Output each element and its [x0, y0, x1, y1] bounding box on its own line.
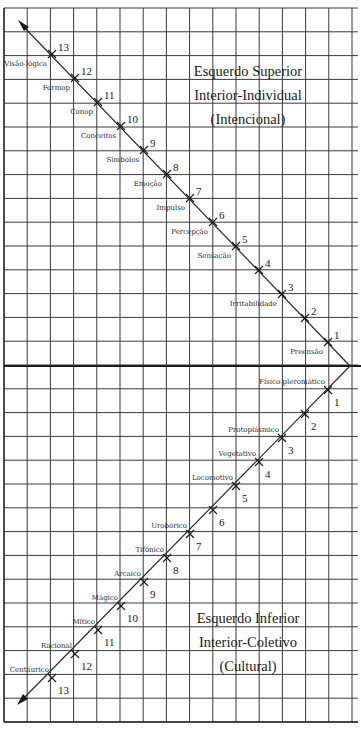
- level-label: Formop: [43, 84, 71, 92]
- upper-level-1: 1Preensão: [290, 329, 339, 356]
- lower-level-8: 8Tifônico: [135, 546, 179, 576]
- level-label: Conceitos: [81, 132, 116, 140]
- level-number: 13: [58, 684, 70, 696]
- upper-title-line2: Interior-Individual: [194, 87, 302, 103]
- level-number: 3: [288, 444, 294, 456]
- level-number: 5: [242, 492, 248, 504]
- level-label: Centáurico: [10, 666, 49, 674]
- level-number: 2: [311, 420, 317, 432]
- level-label: Mágico: [92, 594, 118, 602]
- level-label: Visão-lógica: [3, 60, 47, 68]
- level-label: Tifônico: [135, 546, 164, 554]
- upper-level-3: 3Irritabilidade: [230, 281, 294, 308]
- level-number: 2: [311, 305, 317, 317]
- level-number: 13: [58, 41, 70, 53]
- level-number: 1: [334, 396, 340, 408]
- upper-level-11: 11Conop: [70, 89, 114, 116]
- upper-title-line3: (Intencional): [211, 111, 286, 128]
- level-number: 9: [150, 588, 156, 600]
- level-number: 11: [104, 89, 115, 101]
- level-number: 8: [173, 161, 179, 173]
- level-number: 12: [81, 660, 92, 672]
- level-number: 8: [173, 564, 179, 576]
- level-label: Conop: [70, 108, 93, 116]
- level-number: 6: [219, 209, 225, 221]
- level-label: Sensação: [197, 252, 231, 260]
- lower-title-line3: (Cultural): [219, 658, 276, 675]
- level-number: 1: [334, 329, 340, 341]
- level-number: 9: [150, 137, 156, 149]
- level-label: Irritabilidade: [230, 300, 277, 308]
- lower-level-10: 10Mágico: [92, 594, 139, 624]
- level-number: 4: [265, 468, 271, 480]
- level-label: Impulso: [157, 204, 185, 212]
- lower-level-6: 6: [209, 506, 225, 528]
- level-number: 7: [196, 540, 202, 552]
- level-number: 3: [288, 281, 294, 293]
- level-label: Locomotivo: [192, 474, 233, 482]
- level-number: 4: [265, 257, 271, 269]
- upper-quadrant-title: Esquerdo Superior Interior-Individual (I…: [194, 63, 302, 128]
- level-number: 12: [81, 65, 92, 77]
- level-label: Emoção: [134, 180, 162, 188]
- upper-level-4: 4: [255, 257, 271, 274]
- quadrant-diagram: 1Preensão23Irritabilidade45Sensação6Perc…: [0, 0, 361, 731]
- level-number: 6: [219, 516, 225, 528]
- level-number: 10: [127, 113, 139, 125]
- level-number: 5: [242, 233, 248, 245]
- level-number: 7: [196, 185, 202, 197]
- level-label: Preensão: [290, 348, 323, 356]
- upper-level-2: 2: [301, 305, 317, 322]
- level-label: Símbolos: [107, 156, 140, 164]
- lower-title-line1: Esquerdo Inferior: [197, 610, 300, 626]
- level-label: Arcaico: [113, 570, 141, 578]
- level-label: Protoplásmico: [228, 426, 279, 434]
- level-label: Mítico: [72, 618, 95, 626]
- lower-level-1: 1Físico-pleromático: [259, 378, 339, 408]
- level-label: Urobórico: [151, 522, 187, 530]
- level-number: 11: [104, 636, 115, 648]
- level-number: 10: [127, 612, 139, 624]
- upper-title-line1: Esquerdo Superior: [194, 63, 302, 79]
- grid: [4, 8, 358, 722]
- lower-level-11: 11Mítico: [72, 618, 114, 648]
- level-label: Racional: [41, 642, 73, 650]
- lower-title-line2: Interior-Coletivo: [199, 634, 297, 650]
- level-label: Vegetativo: [218, 450, 256, 458]
- level-label: Percepção: [171, 228, 208, 236]
- lower-quadrant-title: Esquerdo Inferior Interior-Coletivo (Cul…: [197, 610, 300, 675]
- level-label: Físico-pleromático: [259, 378, 325, 386]
- lower-level-13: 13Centáurico: [10, 666, 70, 696]
